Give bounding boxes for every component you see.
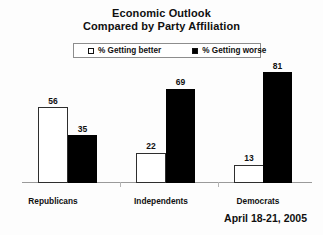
economic-outlook-bar-chart: Economic Outlook Compared by Party Affil… [0,0,323,235]
bar-value-democrats-worse: 81 [263,61,292,71]
bar-independents-worse [166,89,195,183]
bar-value-independents-worse: 69 [166,77,195,87]
bar-independents-better [136,153,166,183]
x-axis-label-independents: Independents [124,196,198,206]
x-axis-label-republicans: Republicans [18,196,88,206]
plot-area: 56 35 Republicans 22 69 Independents 13 … [0,0,323,235]
bar-value-independents-better: 22 [136,141,166,151]
x-axis-tick-1 [120,182,121,187]
bar-democrats-better [234,165,264,183]
bar-republicans-better [38,107,68,183]
bar-republicans-worse [68,135,97,183]
survey-date-annotation: April 18-21, 2005 [224,212,307,224]
bar-democrats-worse [263,72,292,183]
bar-value-republicans-better: 56 [38,96,68,106]
x-axis-label-democrats: Democrats [225,196,291,206]
bar-value-democrats-better: 13 [234,153,264,163]
x-axis-tick-2 [218,182,219,187]
bar-value-republicans-worse: 35 [68,124,97,134]
